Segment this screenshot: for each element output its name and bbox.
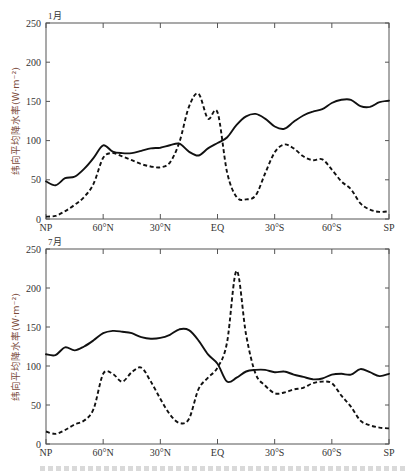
y-tick-label: 150 — [26, 322, 41, 333]
y-tick-label: 200 — [26, 57, 41, 68]
x-tick-label: EQ — [211, 447, 225, 458]
y-tick-label: 200 — [26, 283, 41, 294]
x-tick-label: 60°N — [93, 447, 114, 458]
y-tick-label: 250 — [26, 18, 41, 29]
chart-panel-july: 7月 050100150200250 NP60°N30°NEQ30°S60°SS… — [0, 226, 408, 461]
dashed-series-line — [46, 93, 389, 216]
chart-panel-january: 1月 050100150200250 NP60°N30°NEQ30°S60°SS… — [0, 0, 408, 235]
y-axis-label: 纬向平均降水率(W·m⁻²) — [10, 293, 21, 401]
plot-frame — [46, 249, 389, 444]
y-tick-label: 50 — [31, 174, 41, 185]
y-tick-label: 100 — [26, 361, 41, 372]
plot-frame — [46, 23, 389, 219]
dashed-series-line — [46, 271, 389, 434]
x-tick-label: NP — [40, 447, 53, 458]
x-tick-label: 60°S — [322, 447, 342, 458]
chart-svg-july: 7月 050100150200250 NP60°N30°NEQ30°S60°SS… — [0, 226, 408, 461]
y-tick-label: 50 — [31, 400, 41, 411]
y-tick-label: 250 — [26, 244, 41, 255]
y-ticks: 050100150200250 — [26, 244, 389, 450]
panel-title: 7月 — [48, 237, 62, 247]
y-tick-label: 150 — [26, 96, 41, 107]
figure-caption-cropped — [40, 466, 408, 471]
x-tick-label: SP — [383, 447, 395, 458]
chart-svg-january: 1月 050100150200250 NP60°N30°NEQ30°S60°SS… — [0, 0, 408, 235]
x-tick-label: 30°S — [265, 447, 285, 458]
panel-title: 1月 — [48, 11, 62, 21]
y-ticks: 050100150200250 — [26, 18, 389, 225]
solid-series-line — [46, 329, 389, 382]
y-tick-label: 100 — [26, 135, 41, 146]
x-ticks: NP60°N30°NEQ30°S60°SSP — [40, 249, 395, 458]
y-axis-label: 纬向平均降水率(W·m⁻²) — [10, 67, 21, 175]
x-ticks: NP60°N30°NEQ30°S60°SSP — [40, 23, 395, 233]
x-tick-label: 30°N — [150, 447, 171, 458]
